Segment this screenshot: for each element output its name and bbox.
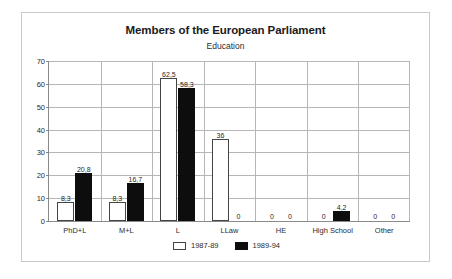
bar-l-1989-94[interactable]: 58,3 (178, 88, 195, 221)
x-axis-label-he: HE (255, 226, 307, 235)
bar-high-school-1989-94[interactable]: 4,2 (333, 211, 350, 221)
legend-swatch-icon (173, 242, 186, 250)
bar-value-label: 36 (217, 132, 225, 139)
bar-group-llaw: 360LLaw (204, 61, 256, 221)
x-axis-label-phd-l: PhD+L (49, 226, 101, 235)
bar-value-label: 58,3 (180, 81, 194, 88)
bar-value-label: 0 (237, 213, 241, 220)
x-axis-label-high-school: High School (307, 226, 359, 235)
y-tick-label-30: 30 (37, 148, 45, 157)
bar-m-l-1987-89[interactable]: 8,3 (109, 202, 126, 221)
plot-area: 010203040506070 8,320,8PhD+L8,316,7M+L62… (48, 61, 410, 222)
bar-group-l: 62,558,3L (152, 61, 204, 221)
bar-group-m-l: 8,316,7M+L (101, 61, 153, 221)
y-tick-label-0: 0 (41, 217, 45, 226)
y-tick-label-20: 20 (37, 171, 45, 180)
bar-group-he: 00HE (255, 61, 307, 221)
bar-phd-l-1987-89[interactable]: 8,3 (57, 202, 74, 221)
legend-item-1987-89[interactable]: 1987-89 (173, 241, 219, 250)
y-tick-label-40: 40 (37, 125, 45, 134)
y-tick-label-70: 70 (37, 57, 45, 66)
x-axis-label-l: L (152, 226, 204, 235)
chart-title: Members of the European Parliament (22, 24, 429, 36)
bar-value-label: 16,7 (129, 176, 143, 183)
bar-m-l-1989-94[interactable]: 16,7 (127, 183, 144, 221)
bar-value-label: 0 (322, 213, 326, 220)
bar-value-label: 0 (288, 213, 292, 220)
bar-llaw-1987-89[interactable]: 36 (212, 139, 229, 221)
x-axis-label-other: Other (358, 226, 410, 235)
y-tick-label-10: 10 (37, 194, 45, 203)
legend-swatch-icon (235, 242, 248, 250)
y-tick-label-50: 50 (37, 102, 45, 111)
x-axis-label-llaw: LLaw (204, 226, 256, 235)
y-tick-label-60: 60 (37, 79, 45, 88)
bar-value-label: 8,3 (61, 195, 71, 202)
bar-group-phd-l: 8,320,8PhD+L (49, 61, 101, 221)
x-axis-label-m-l: M+L (101, 226, 153, 235)
legend-item-1989-94[interactable]: 1989-94 (235, 241, 281, 250)
legend-label: 1989-94 (253, 241, 281, 250)
bar-value-label: 4,2 (337, 204, 347, 211)
bar-value-label: 8,3 (112, 195, 122, 202)
y-tick-mark-0 (46, 221, 49, 222)
chart-frame: Members of the European Parliament Educa… (21, 12, 430, 262)
bar-group-high-school: 04,2High School (307, 61, 359, 221)
legend-label: 1987-89 (191, 241, 219, 250)
bar-value-label: 0 (270, 213, 274, 220)
bar-value-label: 0 (373, 213, 377, 220)
bar-value-label: 20,8 (77, 166, 91, 173)
bar-l-1987-89[interactable]: 62,5 (160, 78, 177, 221)
chart-legend: 1987-891989-94 (22, 241, 431, 250)
screenshot-canvas: Members of the European Parliament Educa… (0, 0, 452, 279)
chart-subtitle: Education (22, 41, 429, 51)
bar-value-label: 62,5 (162, 71, 176, 78)
bar-value-label: 0 (391, 213, 395, 220)
bar-group-other: 00Other (358, 61, 410, 221)
bar-phd-l-1989-94[interactable]: 20,8 (75, 173, 92, 221)
